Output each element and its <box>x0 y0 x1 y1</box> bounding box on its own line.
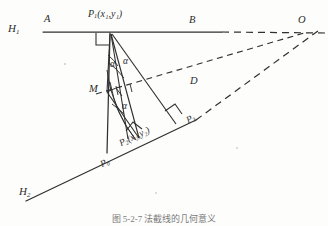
label-m: M <box>89 84 98 95</box>
label-b: B <box>189 15 195 26</box>
label-h2: H2 <box>19 186 30 198</box>
paper-speck <box>236 147 238 149</box>
label-o: O <box>298 15 306 26</box>
figure-caption: 图 5-2-7 法截线的几何意义 <box>0 212 328 225</box>
figure-container: H1 H2 A B O D M P1(x₁,y₁) P2(x₂,y₂) P0 P… <box>0 0 328 226</box>
right-angle-marker-p1 <box>96 33 110 45</box>
label-d: D <box>190 76 198 87</box>
paper-speck <box>155 192 157 194</box>
label-p1: P1(x₁,y₁) <box>88 9 122 20</box>
label-alpha-lower: α <box>122 102 127 112</box>
line-h1-dashed <box>222 32 326 33</box>
label-alpha-upper-right: α <box>123 57 128 67</box>
paper-speck <box>64 63 66 65</box>
line-h2-solid <box>26 120 196 201</box>
label-a: A <box>44 14 50 25</box>
label-alpha-upper-left: α <box>110 60 115 70</box>
tick-on-dashed-ray <box>130 84 132 92</box>
label-h1: H1 <box>8 23 19 35</box>
line-h2-dashed <box>196 28 322 120</box>
geometry-diagram <box>0 0 328 226</box>
